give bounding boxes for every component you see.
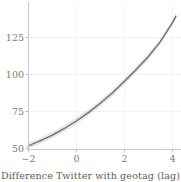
y-tick-label-100: 100 <box>0 70 24 80</box>
x-tick-label-minus2: −2 <box>14 154 43 164</box>
confidence-band <box>28 13 176 149</box>
grid-vertical <box>77 4 173 148</box>
axis-lines <box>28 2 181 150</box>
y-tick-label-50: 50 <box>0 144 24 154</box>
chart-figure: 125 100 75 50 −2 0 2 4 Difference Twitte… <box>0 0 181 182</box>
x-tick-label-4: 4 <box>158 154 181 164</box>
y-tick-label-125: 125 <box>0 33 24 43</box>
fitted-curve <box>28 16 176 146</box>
y-tick-label-75: 75 <box>0 107 24 117</box>
x-axis-label: Difference Twitter with geotag (lag) <box>0 171 181 181</box>
x-tick-label-0: 0 <box>62 154 91 164</box>
x-tick-label-2: 2 <box>110 154 139 164</box>
